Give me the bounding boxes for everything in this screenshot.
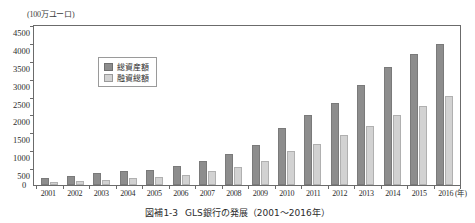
x-axis-label-2006: 2006	[168, 188, 195, 202]
bar-2004-series-2	[129, 178, 137, 185]
bar-2004-series-1	[120, 171, 128, 185]
figure-container: (100万ユーロ) 500100015002000250030003500400…	[0, 0, 475, 223]
chart-legend: 総資産額融資総額	[98, 57, 157, 87]
bar-group-2016	[432, 26, 458, 185]
bar-2001-series-1	[41, 178, 49, 185]
bar-group-2012	[326, 26, 352, 185]
legend-swatch-icon	[104, 74, 113, 82]
x-axis-label-2011: 2011	[300, 188, 327, 202]
y-axis-tick-label: 3500	[13, 65, 30, 74]
bar-2005-series-1	[146, 170, 154, 185]
legend-item-1: 総資産額	[104, 61, 149, 72]
bar-2012-series-2	[340, 135, 348, 185]
bar-2008-series-2	[234, 167, 242, 185]
bar-group-2006	[168, 26, 194, 185]
bar-group-2005	[142, 26, 168, 185]
x-axis-label-2015: 2015	[406, 188, 433, 202]
bar-group-2011	[300, 26, 326, 185]
x-axis-label-2009: 2009	[247, 188, 274, 202]
bar-2014-series-1	[384, 67, 392, 185]
y-axis-unit-label: (100万ユーロ)	[27, 8, 75, 19]
x-axis-label-2014: 2014	[380, 188, 407, 202]
figure-caption: 図補1-3GLS銀行の発展（2001～2016年）	[0, 206, 475, 219]
legend-swatch-icon	[104, 63, 113, 71]
bar-group-2001	[36, 26, 62, 185]
bar-2005-series-2	[155, 177, 163, 185]
bar-2002-series-2	[76, 181, 84, 185]
bar-2014-series-2	[393, 115, 401, 185]
y-axis-tick-label: 2000	[13, 119, 30, 128]
chart-plot-area: 50010001500200025003000350040004500 総資産額…	[33, 25, 461, 186]
bar-2016-series-2	[445, 96, 453, 185]
bar-2015-series-2	[419, 106, 427, 185]
x-axis-label-2005: 2005	[141, 188, 168, 202]
bar-2003-series-2	[102, 180, 110, 185]
bar-group-2004	[115, 26, 141, 185]
x-axis-unit-label: (年)	[455, 188, 467, 200]
x-axis-label-2002: 2002	[62, 188, 89, 202]
bar-2007-series-1	[199, 161, 207, 185]
legend-label: 総資産額	[117, 61, 149, 72]
bar-2013-series-1	[357, 85, 365, 185]
bar-group-2015	[405, 26, 431, 185]
bars-layer	[34, 26, 460, 185]
bar-group-2010	[273, 26, 299, 185]
x-axis-label-2013: 2013	[353, 188, 380, 202]
bar-2007-series-2	[208, 171, 216, 185]
bar-2013-series-2	[366, 126, 374, 185]
bar-2009-series-1	[252, 145, 260, 185]
bar-2015-series-1	[410, 54, 418, 185]
bar-2003-series-1	[93, 173, 101, 185]
legend-label: 融資総額	[117, 72, 149, 83]
x-axis-labels: 2001200220032004200520062007200820092010…	[33, 188, 461, 202]
y-axis-tick-label: 4500	[13, 29, 30, 38]
bar-2010-series-2	[287, 151, 295, 185]
bar-2006-series-2	[182, 175, 190, 185]
y-axis-tick-label: 1500	[13, 137, 30, 146]
bar-2002-series-1	[67, 176, 75, 185]
bar-group-2002	[62, 26, 88, 185]
x-axis-label-2004: 2004	[115, 188, 142, 202]
bar-2009-series-2	[261, 161, 269, 185]
bar-2011-series-1	[304, 115, 312, 185]
y-axis-tick-label: 2500	[13, 101, 30, 110]
bar-2006-series-1	[173, 166, 181, 185]
y-axis-tick-label: 4000	[13, 47, 30, 56]
bar-group-2009	[247, 26, 273, 185]
bar-group-2013	[353, 26, 379, 185]
bar-2016-series-1	[436, 44, 444, 185]
y-axis-tick-label: 3000	[13, 83, 30, 92]
bar-2001-series-2	[50, 182, 58, 185]
figure-caption-text: GLS銀行の発展（2001～2016年）	[185, 208, 330, 218]
bar-2008-series-1	[225, 154, 233, 185]
bar-2010-series-1	[278, 128, 286, 185]
x-axis-label-2001: 2001	[35, 188, 62, 202]
x-axis-label-2012: 2012	[327, 188, 354, 202]
x-axis-label-2010: 2010	[274, 188, 301, 202]
x-axis-label-2008: 2008	[221, 188, 248, 202]
bar-group-2007	[194, 26, 220, 185]
bar-2012-series-1	[331, 103, 339, 185]
bar-group-2003	[89, 26, 115, 185]
y-axis-zero-label: 0	[22, 180, 26, 190]
bar-2011-series-2	[313, 144, 321, 185]
x-axis-label-2007: 2007	[194, 188, 221, 202]
x-axis-label-2003: 2003	[88, 188, 115, 202]
figure-caption-number: 図補1-3	[145, 208, 178, 218]
y-axis-tick-label: 1000	[13, 154, 30, 163]
legend-item-2: 融資総額	[104, 72, 149, 83]
bar-group-2008	[221, 26, 247, 185]
bar-group-2014	[379, 26, 405, 185]
